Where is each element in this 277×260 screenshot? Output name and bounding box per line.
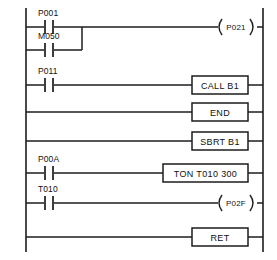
box-call-b1[interactable]: CALL B1 (192, 76, 248, 94)
coil-p02f[interactable]: P02F (219, 195, 253, 211)
rung-1: P001 M050 P021 (26, 8, 263, 57)
contact-t010-label: T010 (38, 184, 58, 194)
contact-p011[interactable]: P011 (38, 66, 58, 92)
contact-p011-label: P011 (38, 66, 58, 76)
box-call-b1-label: CALL B1 (201, 81, 239, 91)
rung-4: SBRT B1 (26, 132, 263, 150)
coil-p02f-arc-left (219, 195, 222, 211)
contact-m050[interactable]: M050 (38, 31, 60, 57)
rung-2: P011 CALL B1 (26, 66, 263, 94)
rung-5: P00A TON T010 300 (26, 154, 263, 182)
contact-p00a-label: P00A (38, 154, 59, 164)
coil-p021-arc-right (250, 19, 253, 35)
box-sbrt-b1-label: SBRT B1 (200, 137, 240, 147)
box-end-label: END (210, 108, 230, 118)
contact-p00a[interactable]: P00A (38, 154, 59, 180)
coil-p02f-arc-right (250, 195, 253, 211)
rung-6: T010 P02F (26, 184, 263, 211)
box-sbrt-b1[interactable]: SBRT B1 (192, 132, 248, 150)
coil-p021-arc-left (219, 19, 222, 35)
contact-p001-label: P001 (38, 8, 58, 18)
box-end[interactable]: END (192, 103, 248, 121)
coil-p021[interactable]: P021 (219, 19, 253, 35)
rung-3: END (26, 103, 263, 121)
contact-t010[interactable]: T010 (38, 184, 58, 210)
box-ton-t010[interactable]: TON T010 300 (163, 164, 248, 182)
coil-p02f-label: P02F (226, 199, 246, 208)
contact-m050-label: M050 (38, 31, 60, 41)
coil-p021-label: P021 (226, 23, 246, 32)
box-ret[interactable]: RET (192, 228, 248, 246)
ladder-diagram-canvas: P001 M050 P021 (0, 0, 277, 260)
rung-7: RET (26, 228, 263, 246)
box-ton-t010-label: TON T010 300 (174, 169, 237, 179)
box-ret-label: RET (210, 233, 229, 243)
ladder-diagram: P001 M050 P021 (0, 0, 277, 260)
